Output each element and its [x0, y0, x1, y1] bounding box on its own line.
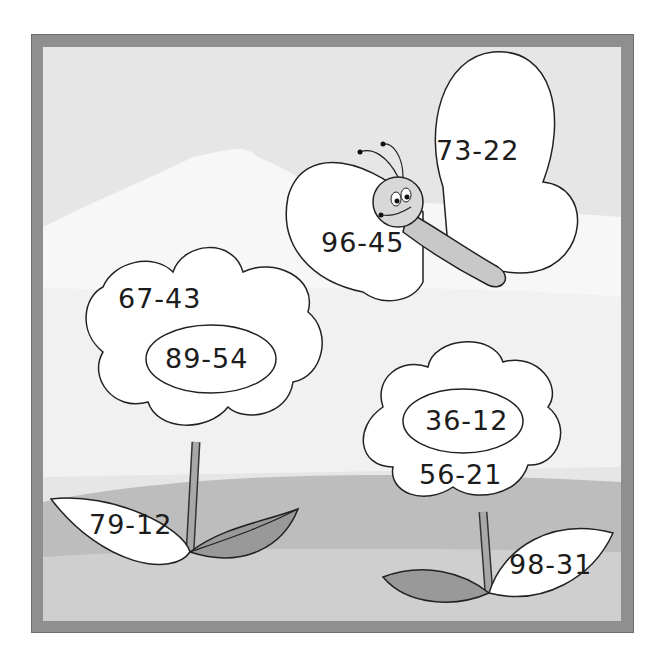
butterfly-lower-wing-label: 96-45 [321, 227, 404, 258]
right-flower-leaf-label: 98-31 [509, 549, 592, 580]
left-flower-petal-label: 67-43 [118, 283, 201, 314]
scene: 73-22 96-45 67-43 89-54 79-12 36-12 56-2… [43, 47, 621, 621]
left-flower-center-label: 89-54 [165, 343, 248, 374]
butterfly-upper-wing-label: 73-22 [436, 135, 519, 166]
right-flower-petal-label: 56-21 [419, 459, 502, 490]
left-flower-leaf-label: 79-12 [89, 509, 172, 540]
right-flower-center-label: 36-12 [425, 405, 508, 436]
